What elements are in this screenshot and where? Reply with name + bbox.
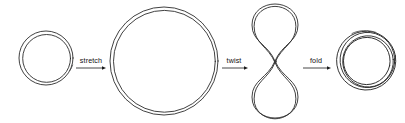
transition-label-twist: twist [227,56,242,65]
transition-stretch: stretch [76,56,106,70]
figure-eight-crossing-point [274,60,277,63]
small-loop-outer-strand [19,31,73,85]
small-loop-strand-join [70,65,73,71]
stretch-arrow-head [102,66,106,69]
transition-label-stretch: stretch [80,56,102,65]
stage-small-loop [19,31,73,85]
diagram-svg: stretch twist fold [0,0,405,123]
transition-fold: fold [303,56,331,70]
small-loop-inner-strand [23,35,71,83]
twist-arrow-head [244,66,248,69]
stage-figure-eight [252,4,298,119]
large-loop-inner-strand [113,10,215,112]
diagram-canvas: stretch twist fold [0,0,405,123]
stage-folded-loop [332,27,400,94]
large-loop-outer-strand [110,7,218,115]
stage-large-loop [110,7,218,115]
transition-twist: twist [222,56,248,70]
transition-label-fold: fold [310,56,322,65]
fold-arrow-head [327,66,331,69]
